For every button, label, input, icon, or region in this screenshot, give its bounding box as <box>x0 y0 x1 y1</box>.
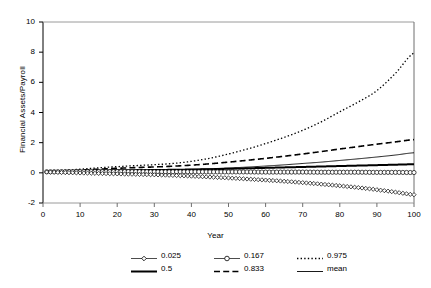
chart-legend: 0.0250.1670.9750.50.833mean <box>129 249 379 275</box>
legend-item-0-5[interactable]: 0.5 <box>129 263 212 274</box>
series-marker <box>386 189 390 193</box>
series-marker <box>401 191 405 195</box>
series-line <box>47 140 414 172</box>
x-tick-label: 100 <box>401 210 427 219</box>
legend-line-sample <box>295 250 325 261</box>
legend-item-0-025[interactable]: 0.025 <box>129 250 212 261</box>
series-marker <box>390 190 394 194</box>
series-marker <box>360 186 364 190</box>
chart-figure: Financial Assets/Payroll Year -20246810 … <box>0 0 431 288</box>
legend-label: 0.975 <box>325 251 347 260</box>
x-tick-label: 80 <box>327 210 353 219</box>
series-marker <box>412 170 416 174</box>
series-marker <box>367 187 371 191</box>
legend-item-0-167[interactable]: 0.167 <box>212 250 295 261</box>
y-tick-label: 0 <box>9 168 35 177</box>
x-tick-label: 70 <box>290 210 316 219</box>
legend-label: mean <box>325 264 347 273</box>
y-tick-label: 6 <box>9 77 35 86</box>
x-tick-label: 60 <box>253 210 279 219</box>
legend-line-sample <box>129 250 159 261</box>
series-marker <box>393 190 397 194</box>
series-marker <box>375 188 379 192</box>
series-marker <box>397 191 401 195</box>
y-tick-label: -2 <box>9 198 35 207</box>
legend-label: 0.167 <box>242 251 264 260</box>
series-marker <box>382 189 386 193</box>
x-tick-label: 0 <box>30 210 56 219</box>
series-marker <box>356 186 360 190</box>
legend-line-sample <box>212 250 242 261</box>
plot-canvas <box>0 0 431 288</box>
x-axis-title: Year <box>0 231 431 240</box>
series-0-833 <box>47 140 414 172</box>
legend-line-sample <box>295 263 325 274</box>
series-line <box>47 53 414 171</box>
legend-item-0-975[interactable]: 0.975 <box>295 250 378 261</box>
legend-item-mean[interactable]: mean <box>295 263 378 274</box>
series-marker <box>353 185 357 189</box>
x-tick-label: 40 <box>178 210 204 219</box>
x-tick-label: 50 <box>216 210 242 219</box>
y-tick-label: 10 <box>9 17 35 26</box>
legend-swatch-thin-solid <box>295 266 325 277</box>
legend-item-0-833[interactable]: 0.833 <box>212 263 295 274</box>
legend-row: 0.0250.1670.975 <box>129 249 379 262</box>
series-marker <box>379 188 383 192</box>
series-marker <box>371 187 375 191</box>
legend-swatch-thick-solid <box>129 266 159 277</box>
y-tick-label: 4 <box>9 108 35 117</box>
series-marker <box>404 192 408 196</box>
series-marker <box>345 184 349 188</box>
y-tick-label: 2 <box>9 138 35 147</box>
legend-label: 0.025 <box>159 251 181 260</box>
legend-swatch-dashed <box>212 266 242 277</box>
legend-label: 0.833 <box>242 264 264 273</box>
legend-row: 0.50.833mean <box>129 262 379 275</box>
y-tick-label: 8 <box>9 47 35 56</box>
series-0-975 <box>47 53 414 171</box>
x-tick-label: 10 <box>67 210 93 219</box>
x-tick-label: 90 <box>364 210 390 219</box>
x-tick-label: 20 <box>104 210 130 219</box>
series-marker <box>412 193 416 197</box>
x-tick-label: 30 <box>141 210 167 219</box>
legend-label: 0.5 <box>159 264 172 273</box>
series-marker <box>349 185 353 189</box>
legend-line-sample <box>129 263 159 274</box>
legend-line-sample <box>212 263 242 274</box>
series-marker <box>364 186 368 190</box>
